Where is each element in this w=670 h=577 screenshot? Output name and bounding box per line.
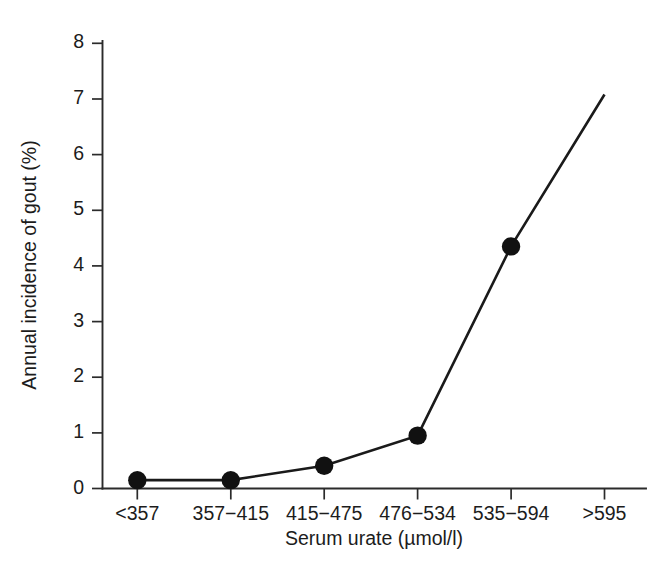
x-axis-title: Serum urate (µmol/l): [285, 527, 463, 549]
y-tick-label: 1: [73, 420, 84, 442]
x-tick-label: >595: [583, 502, 627, 524]
data-point-marker: [315, 456, 333, 474]
x-tick-label: 357−415: [193, 502, 270, 524]
y-tick-label: 6: [73, 142, 84, 164]
y-tick-label: 2: [73, 364, 84, 386]
x-tick-label: 415−475: [286, 502, 363, 524]
data-point-marker: [222, 471, 240, 489]
chart-figure: 0 1 2 3 4 5 6 7 8 <357 357−415 415−475 4…: [0, 0, 670, 577]
data-point-marker: [128, 471, 146, 489]
y-tick-label: 8: [73, 30, 84, 52]
y-axis-tick-labels: 0 1 2 3 4 5 6 7 8: [73, 30, 84, 497]
data-series-line: [137, 95, 604, 481]
y-axis-title: Annual incidence of gout (%): [18, 140, 40, 389]
y-tick-label: 7: [73, 86, 84, 108]
x-tick-label: 535−594: [473, 502, 550, 524]
x-axis-ticks: [137, 489, 604, 500]
y-axis-ticks: [92, 43, 103, 488]
y-tick-label: 3: [73, 309, 84, 331]
data-point-marker: [502, 237, 520, 255]
x-tick-label: <357: [115, 502, 159, 524]
x-axis-tick-labels: <357 357−415 415−475 476−534 535−594 >59…: [115, 502, 626, 524]
line-chart: 0 1 2 3 4 5 6 7 8 <357 357−415 415−475 4…: [0, 0, 670, 577]
y-tick-label: 4: [73, 253, 84, 275]
y-tick-label: 0: [73, 476, 84, 498]
data-series-markers: [128, 237, 520, 489]
y-tick-label: 5: [73, 197, 84, 219]
data-point-marker: [408, 426, 426, 444]
x-tick-label: 476−534: [379, 502, 456, 524]
